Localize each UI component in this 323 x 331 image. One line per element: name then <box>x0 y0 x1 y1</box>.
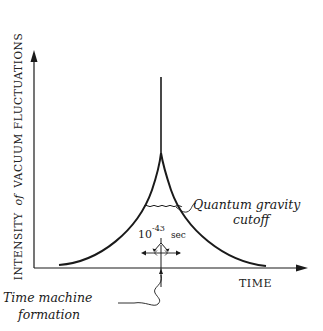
y-axis-label: INTENSITY of VACUUM FLUCTUATIONS <box>12 27 25 287</box>
x-axis-label: TIME <box>239 277 272 290</box>
y-axis-label-prefix: INTENSITY <box>12 212 24 280</box>
diagram-graphics <box>0 0 323 331</box>
cutoff-label-line2: cutoff <box>233 212 269 227</box>
interval-base: 10 <box>138 228 152 241</box>
y-axis-arrow-icon <box>31 50 38 62</box>
right-arrow-icon <box>176 251 181 256</box>
y-axis-label-suffix: VACUUM FLUCTUATIONS <box>12 33 24 188</box>
formation-label-line2: formation <box>18 307 80 322</box>
x-axis-arrow-icon <box>296 265 308 272</box>
interval-exponent: -43 <box>152 224 165 233</box>
intensity-curve-left <box>59 153 161 265</box>
time-interval-label: 10-43sec <box>138 226 186 241</box>
diagram-canvas: INTENSITY of VACUUM FLUCTUATIONS TIME Qu… <box>0 0 323 331</box>
up-arrow-icon <box>159 269 163 275</box>
formation-leader-line <box>118 275 161 305</box>
quantum-gravity-cutoff-line <box>144 205 182 206</box>
x-axis <box>34 265 308 272</box>
y-axis <box>31 50 38 268</box>
cutoff-label-line1: Quantum gravity <box>193 197 300 212</box>
y-axis-label-of: of <box>12 195 25 206</box>
formation-label-line1: Time machine <box>3 290 92 305</box>
interval-unit: sec <box>171 230 186 240</box>
left-arrow-icon <box>141 251 146 256</box>
